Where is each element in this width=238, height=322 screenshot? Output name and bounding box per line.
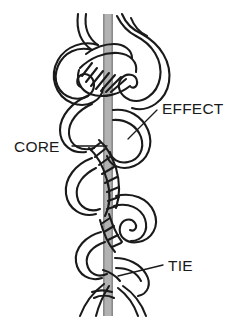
knot-diagram: EFFECT CORE TIE [0, 0, 238, 322]
label-tie: TIE [168, 257, 193, 274]
label-effect: EFFECT [162, 100, 224, 117]
label-core: CORE [14, 138, 60, 155]
